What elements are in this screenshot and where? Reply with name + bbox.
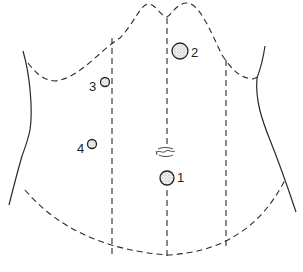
port-3-label: 3 (89, 80, 96, 93)
port-3-icon (101, 78, 110, 87)
abdomen-diagram: 1 2 3 4 (0, 0, 303, 272)
costal-margin-dashed (28, 3, 260, 81)
right-flank-line (257, 46, 296, 212)
port-1-icon (160, 171, 174, 185)
umbilicus-icon (156, 148, 175, 157)
left-flank-line (9, 51, 31, 205)
port-4-label: 4 (77, 142, 84, 155)
lower-abdomen-dashed (25, 180, 285, 255)
abdomen-outline-svg (0, 0, 303, 272)
port-2-label: 2 (191, 46, 198, 59)
port-4-icon (88, 140, 97, 149)
port-1-label: 1 (177, 171, 184, 184)
port-2-icon (172, 43, 188, 59)
